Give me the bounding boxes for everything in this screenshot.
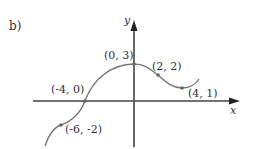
label-point-4-1: (4, 1) — [188, 87, 218, 100]
point-neg4-0 — [83, 99, 87, 103]
point-2-2 — [156, 73, 160, 77]
label-point-neg6-neg2: (-6, -2) — [65, 123, 102, 136]
part-label: b) — [9, 19, 21, 33]
point-neg6-neg2 — [59, 123, 63, 127]
y-axis-arrow-icon — [131, 20, 138, 31]
x-axis-label: x — [230, 104, 237, 117]
label-point-2-2: (2, 2) — [152, 60, 182, 73]
label-point-neg4-0: (-4, 0) — [51, 83, 84, 96]
label-point-0-3: (0, 3) — [104, 49, 134, 62]
point-4-1 — [180, 86, 184, 90]
y-axis-label: y — [123, 14, 131, 27]
graph: b) x y (0, 3) (2, 2) (4, 1) (-4, 0) (-6,… — [0, 0, 255, 149]
point-0-3 — [132, 62, 136, 66]
